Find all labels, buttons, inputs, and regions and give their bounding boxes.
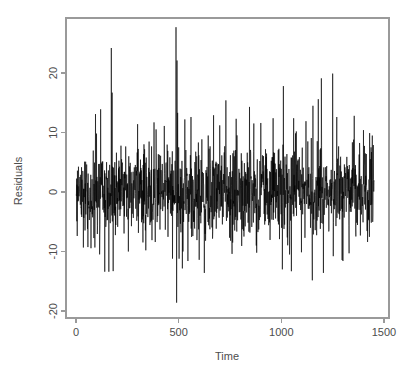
y-axis-tick-label: 0 <box>47 189 59 195</box>
x-axis-tick-label: 1000 <box>269 326 293 338</box>
y-axis-tick-label: 10 <box>47 126 59 138</box>
y-axis-title: Residuals <box>12 156 24 205</box>
chart-canvas: -20-1001020 050010001500 Residuals Time <box>0 0 414 378</box>
y-axis-tick-label: 20 <box>47 67 59 79</box>
y-axis-tick-label: -10 <box>47 244 59 260</box>
x-axis-title: Time <box>215 350 239 362</box>
residual-plot-figure: -20-1001020 050010001500 Residuals Time <box>0 0 414 378</box>
x-axis-tick-label: 0 <box>73 326 79 338</box>
x-axis-tick-label: 1500 <box>372 326 396 338</box>
x-axis-tick-label: 500 <box>169 326 187 338</box>
y-axis-tick-label: -20 <box>47 303 59 319</box>
